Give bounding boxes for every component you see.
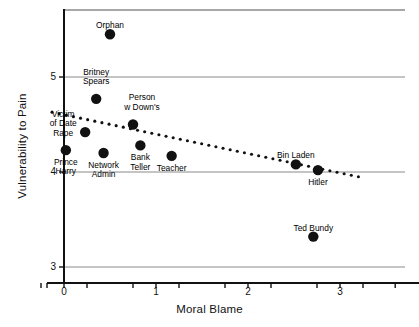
point-label-person-w-downs: Person w Down's (107, 93, 177, 111)
point-label-ted-bundy: Ted Bundy (278, 224, 348, 233)
scatter-plot-figure: Moral Blame Vulnerability to Pain 012334… (0, 0, 419, 327)
data-point-ted-bundy[interactable] (308, 231, 318, 241)
data-point-bin-laden[interactable] (291, 159, 301, 169)
x-axis-title: Moral Blame (0, 303, 419, 315)
point-label-orphan: Orphan (75, 21, 145, 30)
x-tick-label-3: 3 (328, 286, 352, 297)
y-axis-title: Vulnerability to Pain (16, 46, 28, 246)
data-point-britney-spears[interactable] (91, 94, 101, 104)
data-point-prince-harry[interactable] (61, 145, 71, 155)
point-label-britney-spears: Britney Spears (61, 68, 131, 86)
point-label-hitler: Hitler (283, 178, 353, 187)
x-tick-label-0: 0 (52, 286, 76, 297)
data-point-person-w-downs[interactable] (128, 119, 138, 129)
data-point-bank-teller[interactable] (135, 140, 145, 150)
point-label-teacher: Teacher (137, 164, 207, 173)
point-label-victim-of-date-rape: Victim of Date Rape (28, 110, 98, 138)
x-tick-label-1: 1 (144, 286, 168, 297)
y-tick-label-3: 3 (38, 261, 56, 272)
data-point-orphan[interactable] (105, 29, 115, 39)
point-label-bin-laden: Bin Laden (261, 151, 331, 160)
y-tick-label-5: 5 (38, 71, 56, 82)
data-point-hitler[interactable] (313, 165, 323, 175)
x-tick-label-2: 2 (236, 286, 260, 297)
